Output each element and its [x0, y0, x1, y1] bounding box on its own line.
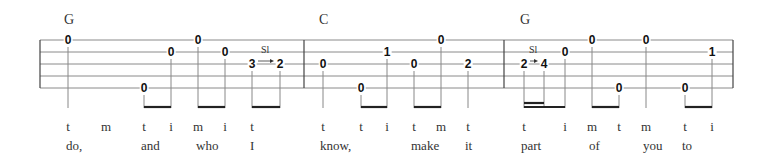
fret-number: 0 — [681, 82, 690, 94]
picking-finger: i — [169, 119, 173, 135]
fret-number: 0 — [410, 58, 419, 70]
picking-finger: t — [142, 119, 146, 135]
fret-number: 4 — [540, 58, 549, 70]
fret-number: 0 — [221, 46, 230, 58]
fret-number: 0 — [588, 34, 597, 46]
lyric-word: of — [589, 138, 600, 154]
picking-finger: t — [250, 119, 254, 135]
lyric-word: part — [521, 138, 541, 154]
slide-label: Sl — [529, 44, 537, 55]
picking-finger: i — [385, 119, 389, 135]
picking-finger: t — [466, 119, 470, 135]
picking-finger: m — [436, 119, 446, 135]
lyric-word: do, — [66, 138, 82, 154]
lyric-word: know, — [320, 138, 351, 154]
picking-finger: t — [412, 119, 416, 135]
fret-number: 0 — [167, 46, 176, 58]
picking-finger: t — [321, 119, 325, 135]
fret-number: 1 — [383, 46, 392, 58]
chord-label: G — [64, 12, 74, 28]
picking-finger: t — [617, 119, 621, 135]
picking-finger: i — [563, 119, 567, 135]
picking-finger: m — [641, 119, 651, 135]
fret-number: 0 — [319, 58, 328, 70]
fret-number: 2 — [520, 58, 529, 70]
banjo-tablature: G0000032SlC001002G24000001Sltmtimitttitm… — [0, 0, 770, 164]
lyric-word: to — [682, 138, 692, 154]
fret-number: 0 — [615, 82, 624, 94]
picking-finger: m — [587, 119, 597, 135]
picking-finger: t — [359, 119, 363, 135]
picking-finger: t — [683, 119, 687, 135]
fret-number: 2 — [276, 58, 285, 70]
picking-finger: t — [522, 119, 526, 135]
fret-number: 0 — [642, 34, 651, 46]
fret-number: 0 — [561, 46, 570, 58]
fret-number: 0 — [437, 34, 446, 46]
fret-number: 3 — [248, 58, 257, 70]
picking-finger: m — [193, 119, 203, 135]
lyric-word: I — [250, 138, 254, 154]
fret-number: 0 — [194, 34, 203, 46]
picking-finger: i — [710, 119, 714, 135]
chord-label: C — [319, 12, 328, 28]
fret-number: 2 — [464, 58, 473, 70]
slide-arrow-head — [270, 59, 274, 63]
lyric-word: and — [141, 138, 160, 154]
fret-number: 0 — [64, 34, 73, 46]
fret-number: 1 — [708, 46, 717, 58]
slide-arrow-head — [534, 59, 538, 63]
chord-label: G — [520, 12, 530, 28]
slide-label: Sl — [261, 44, 269, 55]
fret-number: 0 — [140, 82, 149, 94]
lyric-word: it — [465, 138, 472, 154]
lyric-word: make — [411, 138, 439, 154]
picking-finger: t — [66, 119, 70, 135]
lyric-word: who — [196, 138, 218, 154]
fret-number: 0 — [357, 82, 366, 94]
lyric-word: you — [643, 138, 663, 154]
picking-finger: m — [101, 119, 111, 135]
picking-finger: i — [223, 119, 227, 135]
